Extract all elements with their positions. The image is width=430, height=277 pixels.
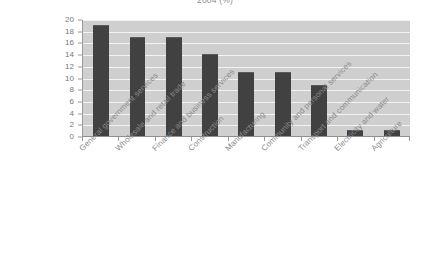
x-axis-ticks — [82, 137, 410, 142]
plot-area — [82, 20, 410, 137]
bar-slot — [192, 20, 228, 136]
y-tick-label: 16 — [65, 39, 74, 47]
x-tick-mark — [301, 137, 302, 141]
chart-title: 2004 (%) — [0, 0, 430, 5]
y-tick-label: 0 — [70, 133, 74, 141]
bar — [238, 72, 254, 136]
x-tick-mark — [409, 137, 410, 141]
bar-slot — [374, 20, 410, 136]
x-tick-mark — [118, 137, 119, 141]
bar-slot — [301, 20, 337, 136]
bar-series — [83, 20, 410, 136]
x-tick-mark — [374, 137, 375, 141]
y-tick-label: 18 — [65, 28, 74, 36]
x-tick-mark — [191, 137, 192, 141]
bar-slot — [228, 20, 264, 136]
y-tick-label: 6 — [70, 98, 74, 106]
x-tick-mark — [155, 137, 156, 141]
y-tick-label: 4 — [70, 110, 74, 118]
x-tick-mark — [337, 137, 338, 141]
y-tick-label: 10 — [65, 75, 74, 83]
bar-slot — [83, 20, 119, 136]
bar — [311, 85, 327, 136]
y-tick-label: 2 — [70, 121, 74, 129]
bar — [202, 54, 218, 136]
bar — [347, 130, 363, 136]
y-tick-label: 8 — [70, 86, 74, 94]
bar — [384, 130, 400, 136]
bar — [166, 37, 182, 136]
bar — [275, 72, 291, 136]
x-tick-mark — [228, 137, 229, 141]
y-tick-label: 12 — [65, 63, 74, 71]
bar-slot — [337, 20, 373, 136]
bar — [130, 37, 146, 136]
y-axis: 20181614121086420 — [52, 20, 78, 137]
bar-slot — [119, 20, 155, 136]
bar — [93, 25, 109, 136]
y-tick-label: 20 — [65, 16, 74, 24]
bar-slot — [265, 20, 301, 136]
bar-slot — [156, 20, 192, 136]
x-tick-mark — [82, 137, 83, 141]
y-tick-label: 14 — [65, 51, 74, 59]
bar-chart: 2004 (%) 20181614121086420 General gover… — [0, 0, 430, 277]
x-tick-mark — [264, 137, 265, 141]
